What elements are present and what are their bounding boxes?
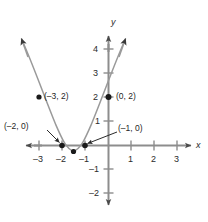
point-neg3-2 bbox=[36, 94, 41, 99]
coordinate-graph: x y –3 –2 –1 1 2 3 4 3 2 1 –1 –2 (–3, 2)… bbox=[0, 0, 208, 222]
point-label-neg2-0: (–2, 0) bbox=[4, 122, 29, 131]
x-tick-label-2: 2 bbox=[151, 155, 156, 164]
x-tick-label-neg3: –3 bbox=[33, 155, 43, 164]
y-axis-label: y bbox=[111, 18, 116, 27]
y-tick-label-neg2: –2 bbox=[89, 189, 99, 198]
y-tick-label-4: 4 bbox=[93, 45, 98, 54]
y-tick-label-neg1: –1 bbox=[89, 165, 99, 174]
point-vertex bbox=[71, 149, 76, 154]
y-axis bbox=[104, 36, 114, 205]
leader-neg2-0 bbox=[47, 130, 60, 143]
point-neg2-0 bbox=[59, 143, 65, 149]
point-label-neg3-2: (–3, 2) bbox=[44, 92, 69, 101]
x-tick-label-1: 1 bbox=[128, 155, 133, 164]
point-0-2 bbox=[106, 94, 112, 100]
y-tick-label-2: 2 bbox=[93, 93, 98, 102]
x-tick-label-neg2: –2 bbox=[56, 155, 66, 164]
graph-canvas bbox=[0, 0, 208, 222]
point-label-0-2: (0, 2) bbox=[116, 92, 136, 101]
point-label-neg1-0: (–1, 0) bbox=[118, 124, 143, 133]
x-tick-label-neg1: –1 bbox=[79, 155, 89, 164]
callout-leaders bbox=[47, 130, 117, 144]
y-tick-label-1: 1 bbox=[95, 117, 100, 126]
curve-arrow-right bbox=[119, 39, 126, 58]
x-tick-label-3: 3 bbox=[174, 155, 179, 164]
curve-arrow-left bbox=[21, 39, 28, 58]
point-neg1-0 bbox=[82, 143, 88, 149]
leader-neg1-0 bbox=[88, 132, 118, 144]
y-tick-label-3: 3 bbox=[93, 69, 98, 78]
x-axis-label: x bbox=[196, 141, 201, 150]
